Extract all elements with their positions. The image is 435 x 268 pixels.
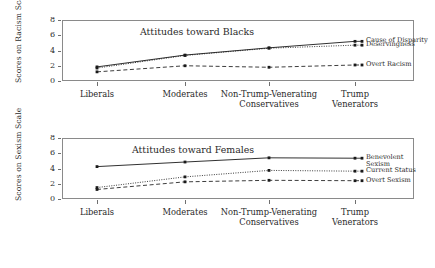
data-point-marker bbox=[268, 66, 271, 69]
series-line bbox=[97, 180, 355, 189]
series-legend-label: Current Status bbox=[366, 167, 416, 174]
legend-marker bbox=[361, 179, 364, 182]
series-line bbox=[97, 170, 355, 187]
legend-marker bbox=[361, 157, 364, 160]
series-line bbox=[97, 65, 355, 72]
data-point-marker bbox=[96, 70, 99, 73]
data-point-marker bbox=[268, 179, 271, 182]
legend-marker bbox=[361, 170, 364, 173]
data-point-marker bbox=[184, 180, 187, 183]
data-point-marker bbox=[96, 67, 99, 70]
series-legend-label: Deservingness bbox=[366, 41, 415, 48]
data-point-marker bbox=[184, 64, 187, 67]
series-line bbox=[97, 158, 355, 167]
data-point-marker bbox=[268, 47, 271, 50]
legend-marker bbox=[361, 40, 364, 43]
figure-two-panel-line-charts: Scores on Racism Scale02468LiberalsModer… bbox=[0, 0, 435, 268]
legend-marker bbox=[361, 44, 364, 47]
data-point-marker bbox=[268, 169, 271, 172]
series-legend-label: Overt Sexism bbox=[366, 177, 411, 184]
chart-panel-attitudes-toward-blacks: Scores on Racism Scale02468LiberalsModer… bbox=[0, 0, 435, 134]
series-line bbox=[97, 41, 355, 67]
data-point-marker bbox=[184, 54, 187, 57]
data-point-marker bbox=[96, 188, 99, 191]
series-legend-label: Overt Racism bbox=[366, 61, 411, 68]
data-point-marker bbox=[96, 165, 99, 168]
data-point-marker bbox=[184, 161, 187, 164]
series-line bbox=[97, 45, 355, 68]
data-point-marker bbox=[184, 175, 187, 178]
legend-marker bbox=[361, 64, 364, 67]
chart-panel-attitudes-toward-females: Scores on Sexism Scale02468LiberalsModer… bbox=[0, 134, 435, 268]
data-point-marker bbox=[268, 156, 271, 159]
